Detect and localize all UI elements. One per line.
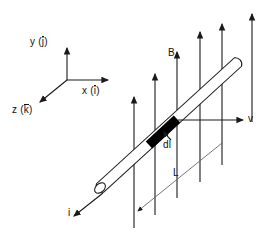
z-axis-label: z (k)	[12, 104, 32, 115]
current-label: i	[68, 208, 70, 218]
length-dimension-line	[138, 143, 222, 211]
velocity-label: v	[248, 114, 253, 124]
magnetic-field-arrow-group	[134, 14, 252, 228]
length-label: L	[173, 168, 179, 178]
diagram-canvas: y (j) x (i) z (k) B v dl L i	[0, 0, 267, 237]
dl-label: dl	[163, 140, 171, 150]
y-axis-label: y (j)	[30, 36, 48, 47]
x-axis-label: x (i)	[82, 85, 100, 96]
current-direction-arrow	[74, 193, 103, 216]
magnetic-field-label: B	[168, 48, 175, 58]
z-axis-line	[40, 80, 67, 102]
